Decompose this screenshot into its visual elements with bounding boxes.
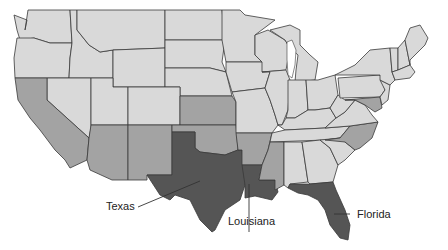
state-florida[interactable]	[288, 182, 350, 240]
label-texas: Texas	[106, 200, 135, 212]
state-maine[interactable]	[405, 25, 428, 65]
state-north-dakota[interactable]	[165, 10, 225, 40]
state-oregon[interactable]	[14, 38, 72, 78]
state-colorado[interactable]	[128, 87, 180, 125]
state-wyoming[interactable]	[113, 48, 165, 87]
state-new-mexico[interactable]	[128, 125, 172, 180]
state-montana[interactable]	[77, 10, 165, 52]
label-louisiana: Louisiana	[228, 215, 275, 227]
state-kansas[interactable]	[180, 96, 236, 125]
state-pennsylvania[interactable]	[338, 75, 385, 98]
state-arizona[interactable]	[87, 125, 128, 180]
label-florida: Florida	[357, 208, 391, 220]
state-south-dakota[interactable]	[165, 40, 226, 72]
